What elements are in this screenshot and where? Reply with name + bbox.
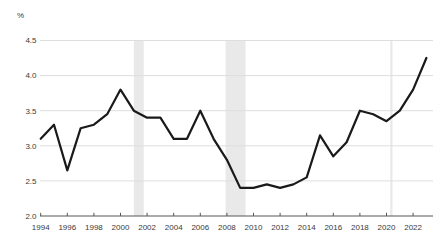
x-tick-label: 2022 [404,223,422,232]
x-tick-label: 2004 [165,223,183,232]
y-axis-unit-label: % [17,12,24,20]
x-tick-label: 2000 [112,223,130,232]
x-tick-label: 2016 [324,223,342,232]
recession-band [390,41,392,217]
x-tick-label: 2010 [245,223,263,232]
x-tick-label: 1996 [58,223,76,232]
x-tick-label: 2012 [271,223,289,232]
y-tick-label: 2.5 [25,177,37,186]
x-tick-label: 2006 [191,223,209,232]
recession-band [134,41,144,217]
y-tick-label: 3.0 [25,142,37,151]
x-tick-label: 2014 [298,223,316,232]
x-tick-label: 2002 [138,223,156,232]
recession-band [226,41,246,217]
chart-container: % 2.02.53.03.54.04.519941996199820002002… [0,0,446,252]
x-tick-label: 2008 [218,223,236,232]
y-tick-label: 3.5 [25,107,37,116]
x-tick-label: 1998 [85,223,103,232]
y-tick-label: 2.0 [25,212,37,221]
x-tick-label: 2020 [378,223,396,232]
x-tick-label: 1994 [32,223,50,232]
y-tick-label: 4.5 [25,36,37,45]
x-tick-label: 2018 [351,223,369,232]
y-tick-label: 4.0 [25,71,37,80]
line-chart: 2.02.53.03.54.04.51994199619982000200220… [0,0,446,252]
